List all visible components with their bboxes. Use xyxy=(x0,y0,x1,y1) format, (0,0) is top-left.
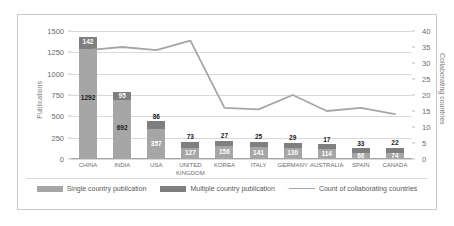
y-tick-mark-right xyxy=(412,31,415,32)
bar-stack[interactable]: 1421292 xyxy=(79,37,97,159)
bar-label-single: 127 xyxy=(185,150,196,157)
bar-segment-single[interactable]: 692 xyxy=(113,100,131,159)
x-axis-label: KOREA xyxy=(207,161,241,169)
bar-label-single: 114 xyxy=(322,151,333,158)
y-tick-right: 35 xyxy=(422,43,430,52)
y-tick-right: 40 xyxy=(422,27,430,36)
bar-label-multiple: 33 xyxy=(357,141,364,148)
y-axis-left-title: Publications xyxy=(36,81,43,119)
bar-segment-multiple[interactable]: 86 xyxy=(147,121,165,128)
x-axis-label: SPAIN xyxy=(344,161,378,169)
y-tick-right: 0 xyxy=(422,155,426,164)
y-tick-mark-right xyxy=(412,127,415,128)
bar-label-multiple: 86 xyxy=(153,114,160,121)
y-tick-left: 0 xyxy=(60,155,64,164)
x-axis-label: INDIA xyxy=(105,161,139,169)
bar-stack[interactable]: 29130 xyxy=(284,143,302,159)
y-tick-right: 30 xyxy=(422,59,430,68)
y-axis-right-title: Collaborating countries xyxy=(439,53,446,125)
legend-item[interactable]: Single country publication xyxy=(37,185,147,192)
bar-label-multiple: 22 xyxy=(391,140,398,147)
legend-line-marker xyxy=(289,188,315,189)
gridline xyxy=(71,52,412,53)
bar-segment-single[interactable]: 357 xyxy=(147,129,165,159)
legend-label: Single country publication xyxy=(67,185,147,192)
bar-label-multiple: 25 xyxy=(255,134,262,141)
y-tick-left: 500 xyxy=(51,112,64,121)
bar-label-single: 1292 xyxy=(81,95,95,102)
y-axis-left: Publications 1500125010007505002500 xyxy=(34,31,68,159)
bar-stack[interactable]: 17114 xyxy=(318,144,336,159)
legend-swatch xyxy=(37,186,63,192)
y-tick-mark-right xyxy=(412,79,415,80)
bar-label-multiple: 95 xyxy=(119,93,126,100)
bar-segment-multiple[interactable]: 142 xyxy=(79,37,97,49)
bar-label-multiple: 17 xyxy=(323,137,330,144)
bar-label-single: 692 xyxy=(117,125,128,132)
x-axis-labels: CHINAINDIAUSAUNITED KINGDOMKOREAITALYGER… xyxy=(71,161,412,187)
x-axis-label: USA xyxy=(139,161,173,169)
bar-label-multiple: 73 xyxy=(187,134,194,141)
y-tick-left: 250 xyxy=(51,133,64,142)
gridline xyxy=(71,74,412,75)
y-tick-mark-right xyxy=(412,95,415,96)
bar-label-multiple: 142 xyxy=(83,39,94,46)
bar-segment-single[interactable]: 156 xyxy=(215,146,233,159)
bar-label-single: 141 xyxy=(253,150,264,157)
y-tick-mark-right xyxy=(412,63,415,64)
bar-stack[interactable]: 25141 xyxy=(250,142,268,159)
y-tick-left: 1000 xyxy=(47,69,64,78)
plot-area: 1421292956928635773127271562514129130171… xyxy=(71,31,412,159)
y-tick-mark-right xyxy=(412,47,415,48)
y-tick-right: 25 xyxy=(422,75,430,84)
y-tick-left: 1500 xyxy=(47,27,64,36)
y-tick-right: 5 xyxy=(422,139,426,148)
y-tick-mark-right xyxy=(412,111,415,112)
y-tick-right: 20 xyxy=(422,91,430,100)
y-tick-right: 15 xyxy=(422,107,430,116)
y-tick-mark-right xyxy=(412,159,415,160)
gridline xyxy=(71,31,412,32)
x-axis-label: AUSTRALIA xyxy=(310,161,344,169)
x-axis-label: ITALY xyxy=(242,161,276,169)
legend-divider xyxy=(26,178,428,179)
y-tick-right: 10 xyxy=(422,123,430,132)
legend-item[interactable]: Count of collaborating countries xyxy=(289,185,417,192)
bar-label-single: 130 xyxy=(287,150,298,157)
y-tick-left: 1250 xyxy=(47,48,64,57)
x-axis-label: CHINA xyxy=(71,161,105,169)
bar-label-single: 156 xyxy=(219,149,230,156)
bar-label-multiple: 29 xyxy=(289,135,296,142)
legend-label: Multiple country publication xyxy=(190,185,274,192)
x-axis-label: GERMANY xyxy=(276,161,310,169)
bar-label-single: 357 xyxy=(151,141,162,148)
bar-stack[interactable]: 73127 xyxy=(181,142,199,159)
bar-label-multiple: 27 xyxy=(221,133,228,140)
y-tick-left: 750 xyxy=(51,91,64,100)
x-axis-line xyxy=(71,158,412,159)
legend-item[interactable]: Multiple country publication xyxy=(160,185,274,192)
bar-stack[interactable]: 95692 xyxy=(113,92,131,159)
x-axis-label: UNITED KINGDOM xyxy=(173,161,207,177)
chart-container: Publications 1500125010007505002500 Coll… xyxy=(17,14,437,210)
bar-stack[interactable]: 86357 xyxy=(147,121,165,159)
bar-stack[interactable]: 27156 xyxy=(215,141,233,159)
y-tick-mark-right xyxy=(412,143,415,144)
y-axis-right: Collaborating countries 4035302520151050 xyxy=(414,31,454,159)
bar-segment-multiple[interactable]: 95 xyxy=(113,92,131,100)
chart-legend: Single country publicationMultiple count… xyxy=(18,185,436,192)
legend-label: Count of collaborating countries xyxy=(319,185,417,192)
legend-swatch xyxy=(160,186,186,192)
bar-segment-single[interactable]: 1292 xyxy=(79,49,97,159)
x-axis-label: CANADA xyxy=(378,161,412,169)
